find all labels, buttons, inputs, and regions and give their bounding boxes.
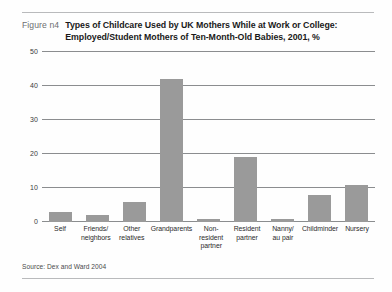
y-axis-tick-label: 0 (34, 218, 38, 225)
x-axis-label-line: Other (115, 225, 149, 234)
bar[interactable] (123, 202, 146, 222)
y-axis-tick-label: 40 (30, 82, 38, 89)
figure-title-line-2: Employed/Student Mothers of Ten-Month-Ol… (65, 32, 337, 44)
x-axis-label-line: Childminder (302, 225, 338, 234)
bar[interactable] (308, 195, 331, 222)
bar-slot (227, 52, 264, 222)
x-axis-label-line: Resident (230, 225, 264, 234)
bar[interactable] (86, 215, 109, 222)
x-axis-label: Nursery (339, 225, 375, 251)
x-axis-label: Residentpartner (229, 225, 265, 251)
figure-number: Figure n4 (22, 20, 59, 32)
x-axis-label: Non-residentpartner (193, 225, 229, 251)
bar-slot (116, 52, 153, 222)
x-axis-label-line: Self (43, 225, 77, 234)
x-axis-label-line: Nanny/ (266, 225, 300, 234)
page-title: Types of Childcare Used by UK Mothers Wh… (65, 20, 337, 43)
x-axis-label: Nanny/au pair (265, 225, 301, 251)
x-axis-label-line: neighbors (79, 234, 113, 243)
bar[interactable] (49, 212, 72, 222)
x-axis-label: Self (42, 225, 78, 251)
x-axis-label-line: Grandparents (151, 225, 193, 234)
figure-caption: Figure n4 Types of Childcare Used by UK … (22, 20, 376, 43)
bar-slot (338, 52, 375, 222)
figure-title-line-1: Types of Childcare Used by UK Mothers Wh… (65, 20, 337, 30)
top-divider-rule (22, 12, 374, 13)
x-axis-label: Otherrelatives (114, 225, 150, 251)
x-axis-labels: SelfFriends/neighborsOtherrelativesGrand… (42, 225, 375, 251)
x-axis-label-line: Non-resident (194, 225, 228, 242)
bar[interactable] (271, 219, 294, 222)
source-note: Source: Dex and Ward 2004 (22, 263, 106, 270)
bar-slot (190, 52, 227, 222)
plot-area: 01020304050 (42, 52, 375, 222)
x-axis-label-line: Friends/ (79, 225, 113, 234)
x-axis-label: Friends/neighbors (78, 225, 114, 251)
x-axis-label-line: Nursery (340, 225, 374, 234)
x-axis-label-line: partner (194, 242, 228, 251)
y-axis-tick-label: 50 (30, 48, 38, 55)
figure-container: Figure n4 Types of Childcare Used by UK … (0, 0, 392, 292)
bar-slot (79, 52, 116, 222)
x-axis-label-line: au pair (266, 234, 300, 243)
x-axis-label: Childminder (301, 225, 339, 251)
bar[interactable] (234, 157, 257, 222)
y-axis-tick-label: 30 (30, 116, 38, 123)
x-axis-label-line: relatives (115, 234, 149, 243)
y-axis-tick-label: 20 (30, 150, 38, 157)
bar-slot (153, 52, 190, 222)
y-axis-tick-label: 10 (30, 184, 38, 191)
bars-group (42, 52, 375, 222)
bar[interactable] (197, 219, 220, 222)
bottom-divider-rule (22, 278, 374, 279)
bar-slot (42, 52, 79, 222)
bar-slot (264, 52, 301, 222)
bar[interactable] (160, 79, 183, 222)
bar-slot (301, 52, 338, 222)
x-axis-label: Grandparents (150, 225, 194, 251)
bar[interactable] (345, 185, 368, 222)
x-axis-label-line: partner (230, 234, 264, 243)
